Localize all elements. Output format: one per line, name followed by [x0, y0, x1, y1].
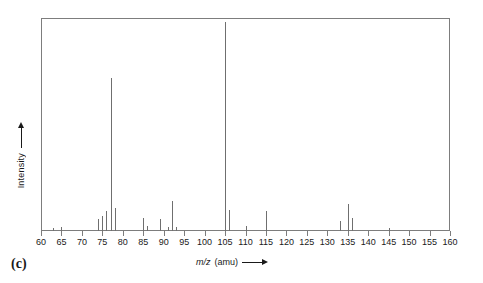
mass-spectrum-figure: 6065707580859095100105110115120125130135…	[0, 0, 483, 283]
y-axis-title-text: Intensity	[16, 153, 26, 188]
x-axis-tick	[61, 231, 62, 236]
x-axis-tick-label: 80	[118, 237, 128, 248]
spectrum-peak	[172, 201, 173, 231]
x-axis-tick	[205, 231, 206, 236]
x-axis-tick	[164, 231, 165, 236]
spectrum-peak	[225, 22, 226, 231]
spectrum-peak	[352, 218, 353, 231]
x-axis-tick-label: 115	[259, 237, 273, 248]
x-axis-tick-label: 120	[279, 237, 294, 248]
spectrum-peak	[229, 210, 230, 231]
spectrum-peak	[348, 204, 349, 231]
x-axis-tick-label: 105	[218, 237, 233, 248]
spectrum-peak	[340, 221, 341, 231]
x-axis-tick-label: 145	[381, 237, 396, 248]
x-axis-tick-label: 135	[340, 237, 355, 248]
x-axis-tick	[409, 231, 410, 236]
x-axis-tick	[82, 231, 83, 236]
x-axis-tick-label: 75	[97, 237, 107, 248]
x-axis-tick	[368, 231, 369, 236]
x-axis-tick	[225, 231, 226, 236]
x-axis-tick-label: 150	[402, 237, 417, 248]
x-axis-tick-label: 65	[56, 237, 66, 248]
x-axis-tick	[307, 231, 308, 236]
x-axis-tick-label: 60	[36, 237, 46, 248]
x-axis-tick-label: 85	[138, 237, 148, 248]
x-axis-tick-label: 140	[361, 237, 376, 248]
x-axis-title: m/z (amu)	[196, 257, 268, 267]
x-axis-tick-label: 130	[320, 237, 335, 248]
x-axis-tick	[246, 231, 247, 236]
x-axis-title-symbol: m/z	[196, 257, 211, 267]
spectrum-peak	[143, 218, 144, 231]
x-axis-tick-label: 70	[77, 237, 87, 248]
spectrum-peak	[115, 208, 116, 231]
arrow-right-icon	[242, 259, 268, 266]
x-axis-tick	[286, 231, 287, 236]
x-axis-tick-label: 155	[422, 237, 437, 248]
spectrum-peak	[266, 211, 267, 231]
spectrum-peak	[160, 219, 161, 231]
y-axis-title: Intensity	[14, 96, 28, 188]
x-axis-tick	[266, 231, 267, 236]
x-axis-tick-labels: 6065707580859095100105110115120125130135…	[41, 237, 450, 251]
x-axis-tick	[450, 231, 451, 236]
x-axis-tick-label: 160	[442, 237, 457, 248]
x-axis-tick	[143, 231, 144, 236]
x-axis-title-units: (amu)	[215, 257, 239, 267]
x-axis-tick	[184, 231, 185, 236]
x-axis-tick	[102, 231, 103, 236]
spectrum-peak	[106, 211, 107, 231]
spectrum-peak	[102, 216, 103, 231]
x-axis-tick-label: 100	[197, 237, 212, 248]
panel-label: (c)	[11, 256, 27, 272]
x-axis-tick-label: 125	[299, 237, 314, 248]
x-axis-tick-label: 95	[179, 237, 189, 248]
x-axis-tick	[41, 231, 42, 236]
x-axis-tick-label: 90	[159, 237, 169, 248]
x-axis-tick	[430, 231, 431, 236]
x-axis-tick	[327, 231, 328, 236]
spectrum-peak	[111, 78, 112, 231]
peaks-layer	[41, 18, 450, 231]
x-axis-tick	[123, 231, 124, 236]
spectrum-peak	[98, 219, 99, 231]
x-axis-tick-label: 110	[238, 237, 252, 248]
x-axis-tick	[389, 231, 390, 236]
x-axis-tick	[348, 231, 349, 236]
arrow-up-icon	[18, 122, 25, 148]
